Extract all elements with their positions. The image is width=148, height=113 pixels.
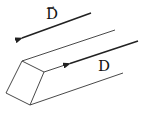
prism-front-face	[6, 61, 44, 105]
magnitude-d-label: D	[98, 59, 110, 74]
vector-arrow-accent: →	[47, 3, 55, 12]
vector-d-label: → D	[46, 7, 58, 22]
prism-drawing	[0, 0, 148, 113]
prism-vector-diagram: → D D	[0, 0, 148, 113]
prism-bottom-edge	[30, 73, 123, 105]
prism-middle-edge	[44, 64, 68, 72]
